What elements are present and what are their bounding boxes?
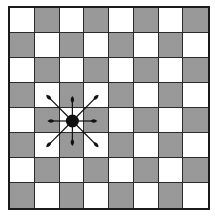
- board-square-r1-c4: [109, 33, 134, 58]
- board-square-r5-c5: [134, 133, 159, 158]
- board-square-r2-c7: [183, 58, 208, 83]
- board-square-r0-c0: [10, 8, 35, 33]
- board-square-r6-c1: [35, 158, 60, 183]
- board-square-r4-c7: [183, 108, 208, 133]
- board-square-r2-c6: [159, 58, 184, 83]
- board-square-r7-c5: [134, 183, 159, 208]
- board-square-r6-c5: [134, 158, 159, 183]
- board-square-r5-c7: [183, 133, 208, 158]
- board-square-r6-c2: [60, 158, 85, 183]
- board-square-r7-c4: [109, 183, 134, 208]
- board-square-r5-c3: [84, 133, 109, 158]
- board-square-r3-c3: [84, 83, 109, 108]
- board-square-r7-c2: [60, 183, 85, 208]
- board-square-r6-c7: [183, 158, 208, 183]
- board-square-r0-c4: [109, 8, 134, 33]
- board-square-r5-c2: [60, 133, 85, 158]
- board-square-r3-c7: [183, 83, 208, 108]
- board-square-r4-c6: [159, 108, 184, 133]
- board-square-r7-c3: [84, 183, 109, 208]
- board-square-r1-c7: [183, 33, 208, 58]
- board-square-r6-c4: [109, 158, 134, 183]
- board-square-r5-c0: [10, 133, 35, 158]
- board-square-r2-c1: [35, 58, 60, 83]
- board-square-r2-c2: [60, 58, 85, 83]
- board-square-r5-c6: [159, 133, 184, 158]
- board-square-r4-c2: [60, 108, 85, 133]
- board-square-r1-c1: [35, 33, 60, 58]
- board-square-r4-c3: [84, 108, 109, 133]
- board-square-r3-c4: [109, 83, 134, 108]
- board-square-r3-c5: [134, 83, 159, 108]
- board-square-r7-c6: [159, 183, 184, 208]
- board-square-r3-c0: [10, 83, 35, 108]
- board-square-r1-c2: [60, 33, 85, 58]
- board-square-r5-c4: [109, 133, 134, 158]
- board-square-r4-c1: [35, 108, 60, 133]
- board-square-r1-c3: [84, 33, 109, 58]
- board-square-r0-c5: [134, 8, 159, 33]
- board-square-r7-c0: [10, 183, 35, 208]
- board-square-r7-c7: [183, 183, 208, 208]
- board-square-r0-c2: [60, 8, 85, 33]
- board-square-r3-c2: [60, 83, 85, 108]
- board-square-r0-c3: [84, 8, 109, 33]
- board-square-r2-c3: [84, 58, 109, 83]
- board-square-r2-c4: [109, 58, 134, 83]
- checkerboard: [8, 6, 210, 210]
- board-square-r2-c0: [10, 58, 35, 83]
- board-square-r5-c1: [35, 133, 60, 158]
- board-square-r3-c6: [159, 83, 184, 108]
- board-square-r7-c1: [35, 183, 60, 208]
- board-square-r6-c6: [159, 158, 184, 183]
- board-square-r0-c6: [159, 8, 184, 33]
- board-square-r3-c1: [35, 83, 60, 108]
- board-square-r1-c6: [159, 33, 184, 58]
- board-square-r1-c5: [134, 33, 159, 58]
- board-square-r6-c3: [84, 158, 109, 183]
- board-square-r6-c0: [10, 158, 35, 183]
- board-square-r0-c7: [183, 8, 208, 33]
- board-square-r2-c5: [134, 58, 159, 83]
- board-square-r1-c0: [10, 33, 35, 58]
- board-square-r0-c1: [35, 8, 60, 33]
- board-square-r4-c4: [109, 108, 134, 133]
- board-square-r4-c0: [10, 108, 35, 133]
- board-square-r4-c5: [134, 108, 159, 133]
